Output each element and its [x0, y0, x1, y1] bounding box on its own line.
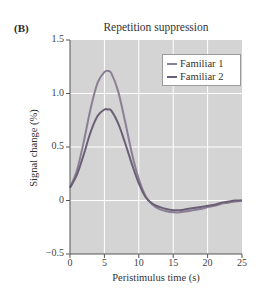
- x-tick-label: 20: [198, 257, 218, 268]
- legend-label: Familiar 1: [180, 58, 223, 69]
- x-axis-label: Peristimulus time (s): [70, 272, 242, 283]
- y-tick-label: 0: [34, 194, 64, 205]
- x-tick-label: 5: [94, 257, 114, 268]
- y-tick-label: 0.5: [34, 140, 64, 151]
- legend-label: Familiar 2: [180, 71, 223, 82]
- y-axis-label: Signal change (%): [28, 109, 39, 187]
- x-tick-label: 15: [163, 257, 183, 268]
- x-tick-label: 25: [232, 257, 252, 268]
- legend-swatch-familiar-2: [167, 76, 177, 78]
- y-tick-label: 1.0: [34, 87, 64, 98]
- legend-item-familiar-1: Familiar 1: [167, 57, 237, 70]
- x-tick-label: 10: [129, 257, 149, 268]
- legend: Familiar 1 Familiar 2: [162, 54, 241, 86]
- x-tick-label: 0: [60, 257, 80, 268]
- legend-swatch-familiar-1: [167, 63, 177, 65]
- y-tick-label: 1.5: [34, 33, 64, 44]
- legend-item-familiar-2: Familiar 2: [167, 70, 237, 83]
